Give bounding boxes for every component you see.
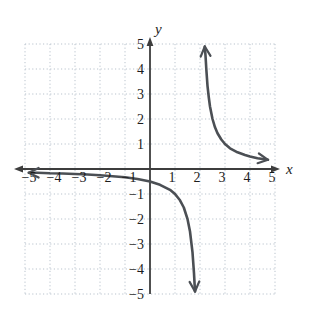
x-tick-label: 1 (169, 170, 176, 185)
y-axis-top-arrow-icon (147, 37, 154, 46)
y-tick-label: −3 (129, 237, 144, 252)
x-tick-label: −4 (47, 170, 62, 185)
x-tick-label: 4 (244, 170, 251, 185)
x-axis-label: x (285, 161, 293, 177)
y-tick-label: 2 (137, 112, 144, 127)
curve-right-branch (205, 47, 268, 160)
graph-canvas: −5−4−3−2−11234554321−1−2−3−4−5xy (0, 0, 312, 320)
coordinate-plane-figure: −5−4−3−2−11234554321−1−2−3−4−5xy (0, 0, 312, 320)
x-tick-label: −1 (122, 170, 137, 185)
x-tick-label: −5 (22, 170, 37, 185)
y-tick-label: 4 (137, 62, 144, 77)
curve-left-branch (29, 173, 195, 292)
y-tick-label: −4 (129, 262, 144, 277)
y-tick-label: 1 (137, 137, 144, 152)
x-tick-label: −2 (97, 170, 112, 185)
y-axis-label: y (153, 21, 162, 37)
y-tick-label: −5 (129, 287, 144, 302)
x-tick-label: 5 (269, 170, 276, 185)
x-tick-label: −3 (72, 170, 87, 185)
y-tick-label: 5 (137, 37, 144, 52)
x-tick-label: 2 (194, 170, 201, 185)
x-tick-label: 3 (219, 170, 226, 185)
y-tick-label: 3 (137, 87, 144, 102)
y-tick-label: −1 (129, 187, 144, 202)
y-tick-label: −2 (129, 212, 144, 227)
